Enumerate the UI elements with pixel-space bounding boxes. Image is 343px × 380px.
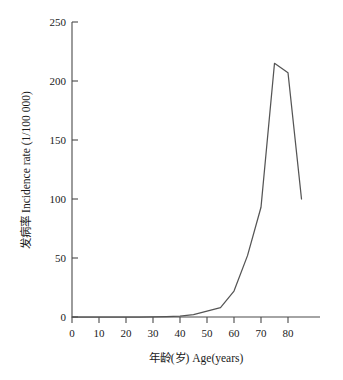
x-tick-marks: [72, 317, 288, 323]
y-axis-title: 发病率 Incidence rate (1/100 000): [19, 91, 33, 249]
y-tick-marks: [72, 22, 78, 317]
incidence-line-chart: 0 50 100 150 200 250 0 10 20 30 40 50 60…: [0, 0, 343, 380]
x-tick-label-30: 30: [148, 327, 160, 339]
incidence-rate-line: [72, 63, 302, 317]
x-tick-label-40: 40: [175, 327, 187, 339]
y-tick-label-150: 150: [50, 134, 67, 146]
x-tick-label-60: 60: [229, 327, 241, 339]
y-tick-label-250: 250: [50, 16, 67, 28]
y-tick-label-0: 0: [61, 311, 67, 323]
y-tick-label-200: 200: [50, 75, 67, 87]
x-tick-label-10: 10: [94, 327, 106, 339]
x-tick-label-70: 70: [256, 327, 268, 339]
chart-figure: 0 50 100 150 200 250 0 10 20 30 40 50 60…: [0, 0, 343, 380]
x-tick-label-50: 50: [202, 327, 214, 339]
x-axis-title: 年龄(岁) Age(years): [149, 351, 244, 365]
x-tick-label-20: 20: [121, 327, 133, 339]
y-tick-label-50: 50: [55, 252, 67, 264]
x-tick-label-80: 80: [283, 327, 295, 339]
y-tick-label-100: 100: [50, 193, 67, 205]
x-tick-label-0: 0: [69, 327, 75, 339]
